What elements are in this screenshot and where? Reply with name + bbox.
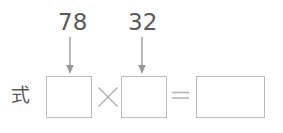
annotation-value-first-factor: 78 — [58, 11, 87, 34]
equation-row-label: 式 — [11, 86, 30, 105]
math-worksheet-canvas: 78 32 式 — [0, 0, 283, 133]
multiplication-operator-icon — [96, 85, 120, 109]
product-answer-box[interactable] — [196, 76, 265, 118]
arrow-down-icon-second-factor — [135, 36, 149, 76]
multiplier-answer-box[interactable] — [121, 76, 167, 118]
equals-operator-icon — [171, 88, 190, 102]
multiplicand-answer-box[interactable] — [46, 76, 92, 118]
annotation-value-second-factor: 32 — [128, 11, 157, 34]
arrow-down-icon-first-factor — [63, 36, 77, 76]
